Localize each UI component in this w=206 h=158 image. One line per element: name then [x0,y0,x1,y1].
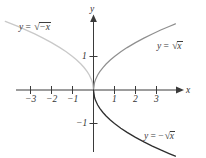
radical-left: √−x [33,22,51,33]
curve-label-neg-sqrt-x: y = −√x [144,131,175,142]
curve-label-sqrt-neg-x: y = √−x [19,22,51,33]
x-tick-label--1: −1 [67,95,78,105]
x-tick-label--2: −2 [46,95,57,105]
radical-lower-right: √x [164,131,175,142]
x-tick-label--3: −3 [25,95,36,105]
x-tick-label-3: 3 [154,95,159,105]
radicand-upper-right: x [177,41,182,52]
curve-sqrt-x [94,24,176,90]
y-tick-label--1: −1 [76,119,87,129]
y-axis-label: y [90,5,94,15]
curve-label-sqrt-x: y = √x [157,41,183,52]
x-tick-label-2: 2 [133,95,138,105]
y-tick-label-1: 1 [82,52,87,62]
x-tick-label-1: 1 [112,95,117,105]
x-axis-label: x [186,86,190,96]
math-figure: −3 −2 −1 1 2 3 1 −1 x y y = √−x y = √x y… [0,0,206,158]
radical-upper-right: √x [171,41,182,52]
y-axis [90,15,97,153]
x-axis [16,87,184,94]
radicand-lower-right: x [170,131,175,142]
radicand-left: −x [39,22,51,33]
